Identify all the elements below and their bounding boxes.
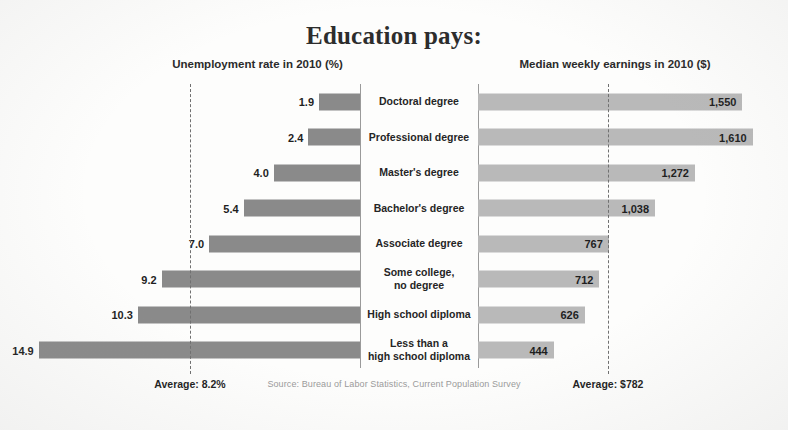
chart-row: 7.0Associate degree767 [0, 226, 788, 262]
earnings-value-label: 1,272 [661, 167, 689, 179]
earnings-bar: 1,550 [478, 93, 742, 110]
unemployment-bar: 4.0 [274, 164, 360, 181]
earnings-bar: 712 [478, 271, 599, 288]
earnings-value-label: 444 [529, 344, 547, 356]
unemployment-bar: 2.4 [308, 129, 360, 146]
category-label-cell: Master's degree [360, 155, 478, 191]
earnings-value-label: 1,610 [719, 131, 747, 143]
unemployment-bar: 10.3 [138, 306, 360, 323]
unemployment-average-line [190, 84, 191, 374]
category-label-cell: Professional degree [360, 120, 478, 156]
category-label-cell: Bachelor's degree [360, 191, 478, 227]
category-label-cell: Associate degree [360, 226, 478, 262]
category-label: Bachelor's degree [374, 202, 465, 215]
category-label-cell: Doctoral degree [360, 84, 478, 120]
category-label: High school diploma [367, 308, 470, 321]
earnings-value-label: 1,038 [622, 202, 650, 214]
chart-row: 1.9Doctoral degree1,550 [0, 84, 788, 120]
category-label-cell: Some college, no degree [360, 262, 478, 298]
earnings-average-line [608, 84, 609, 374]
earnings-bar: 444 [478, 342, 554, 359]
unemployment-value-label: 7.0 [189, 238, 204, 250]
chart-row: 4.0Master's degree1,272 [0, 155, 788, 191]
category-label: Master's degree [379, 166, 459, 179]
unemployment-value-label: 5.4 [223, 202, 238, 214]
unemployment-bar: 1.9 [319, 93, 360, 110]
unemployment-bar: 5.4 [244, 200, 360, 217]
chart-row: 5.4Bachelor's degree1,038 [0, 191, 788, 227]
category-label: Doctoral degree [379, 95, 459, 108]
chart-row: 9.2Some college, no degree712 [0, 262, 788, 298]
unemployment-value-label: 2.4 [288, 131, 303, 143]
unemployment-value-label: 9.2 [141, 273, 156, 285]
unemployment-bar: 14.9 [39, 342, 360, 359]
earnings-bar: 767 [478, 235, 609, 252]
unemployment-bar: 9.2 [162, 271, 360, 288]
unemployment-value-label: 10.3 [111, 309, 132, 321]
earnings-bar: 1,610 [478, 129, 753, 146]
source-note: Source: Bureau of Labor Statistics, Curr… [0, 379, 788, 389]
chart-row: 10.3High school diploma626 [0, 297, 788, 333]
right-column-header: Median weekly earnings in 2010 ($) [495, 58, 735, 70]
category-label: Professional degree [369, 131, 469, 144]
earnings-value-label: 712 [575, 273, 593, 285]
earnings-bar: 626 [478, 306, 585, 323]
unemployment-value-label: 4.0 [253, 167, 268, 179]
earnings-bar: 1,038 [478, 200, 655, 217]
chart-title: Education pays: [0, 22, 788, 50]
category-label-cell: Less than a high school diploma [360, 333, 478, 369]
education-pays-chart: Education pays: Unemployment rate in 201… [0, 0, 788, 430]
category-label-cell: High school diploma [360, 297, 478, 333]
earnings-value-label: 626 [560, 309, 578, 321]
plot-area: 1.9Doctoral degree1,5502.4Professional d… [0, 84, 788, 368]
unemployment-value-label: 14.9 [12, 344, 33, 356]
chart-row: 2.4Professional degree1,610 [0, 120, 788, 156]
category-label: Less than a high school diploma [368, 337, 470, 363]
earnings-value-label: 1,550 [709, 96, 737, 108]
left-column-header: Unemployment rate in 2010 (%) [140, 58, 375, 70]
unemployment-bar: 7.0 [209, 235, 360, 252]
category-label: Some college, no degree [384, 266, 455, 292]
earnings-value-label: 767 [584, 238, 602, 250]
earnings-bar: 1,272 [478, 164, 695, 181]
unemployment-value-label: 1.9 [299, 96, 314, 108]
chart-row: 14.9Less than a high school diploma444 [0, 333, 788, 369]
category-label: Associate degree [376, 237, 463, 250]
